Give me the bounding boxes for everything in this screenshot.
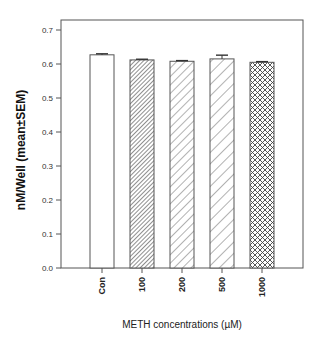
y-tick-label: 0.7 [42, 26, 54, 35]
y-axis-label: nM/Well (mean±SEM) [14, 90, 28, 210]
bar-Con [90, 55, 114, 268]
bar-200 [170, 61, 194, 268]
y-axis: 0.00.10.20.30.40.50.60.7 [42, 26, 61, 273]
y-tick-label: 0.0 [42, 264, 54, 273]
x-tick-label: 100 [137, 277, 147, 292]
x-tick-label: 1000 [257, 277, 267, 297]
bar-100 [130, 60, 154, 268]
x-axis: Con1002005001000 [97, 268, 267, 297]
y-tick-label: 0.1 [42, 230, 54, 239]
y-tick-label: 0.4 [42, 128, 54, 137]
x-tick-label: Con [97, 277, 107, 295]
y-tick-label: 0.2 [42, 196, 54, 205]
y-tick-label: 0.3 [42, 162, 54, 171]
bar-1000 [250, 62, 274, 268]
x-axis-label: METH concentrations (µM) [122, 319, 242, 330]
x-tick-label: 500 [217, 277, 227, 292]
x-tick-label: 200 [177, 277, 187, 292]
bar-chart: 0.00.10.20.30.40.50.60.7 Con100200500100… [0, 0, 319, 341]
y-tick-label: 0.6 [42, 60, 54, 69]
bars-group [90, 54, 274, 268]
y-tick-label: 0.5 [42, 94, 54, 103]
bar-500 [210, 59, 234, 268]
